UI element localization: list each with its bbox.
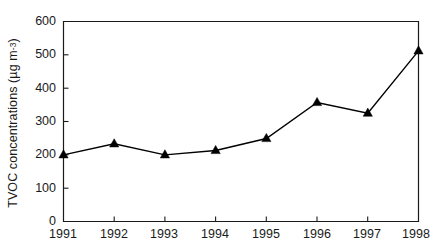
data-point-marker xyxy=(110,139,119,147)
series-line xyxy=(64,51,419,155)
data-point-marker xyxy=(312,97,321,105)
data-point-marker xyxy=(262,133,271,141)
x-axis-ticks xyxy=(114,217,368,222)
chart-container: TVOC concentrations (µg m-3) 600 500 400… xyxy=(0,0,439,252)
y-axis-ticks xyxy=(64,55,69,188)
series-markers xyxy=(59,46,423,158)
data-series-tvoc xyxy=(59,46,423,158)
data-point-marker xyxy=(414,46,423,54)
plot-frame xyxy=(64,22,419,222)
plot-area xyxy=(0,0,439,252)
